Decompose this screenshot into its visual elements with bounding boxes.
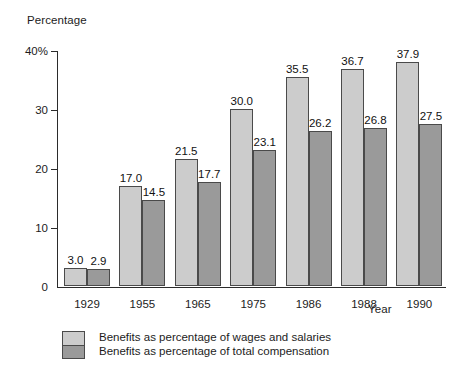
x-tick-label-1965: 1965 bbox=[185, 298, 211, 310]
bar-1955-series2[interactable] bbox=[142, 200, 165, 286]
legend-swatch-2[interactable] bbox=[62, 345, 85, 359]
bar-value-label: 2.9 bbox=[91, 255, 107, 267]
legend-swatches bbox=[62, 331, 85, 359]
bar-value-label: 35.5 bbox=[286, 63, 308, 75]
y-tick-label: 40% bbox=[25, 45, 48, 57]
plot-area: 010203040% 3.02.917.014.521.517.730.023.… bbox=[57, 51, 446, 287]
legend: Benefits as percentage of wages and sala… bbox=[62, 330, 331, 359]
legend-swatch-1[interactable] bbox=[62, 331, 85, 345]
bar-1965-series1[interactable] bbox=[175, 159, 198, 286]
y-axis-title: Percentage bbox=[27, 14, 87, 26]
bar-value-label: 30.0 bbox=[230, 95, 252, 107]
y-tick-label: 20 bbox=[35, 163, 48, 175]
y-tick-mark bbox=[51, 169, 58, 170]
x-tick-label-1955: 1955 bbox=[130, 298, 156, 310]
bar-value-label: 23.1 bbox=[253, 136, 275, 148]
bar-1990-series2[interactable] bbox=[419, 124, 442, 286]
bar-1988-series2[interactable] bbox=[364, 128, 387, 286]
legend-label-1: Benefits as percentage of wages and sala… bbox=[99, 330, 331, 344]
y-tick-label: 10 bbox=[35, 222, 48, 234]
y-tick-mark bbox=[51, 110, 58, 111]
bar-1965-series2[interactable] bbox=[198, 182, 221, 286]
bar-value-label: 27.5 bbox=[420, 110, 442, 122]
bar-value-label: 17.0 bbox=[120, 172, 142, 184]
bar-value-label: 3.0 bbox=[68, 254, 84, 266]
x-tick-label-1929: 1929 bbox=[74, 298, 100, 310]
bar-chart: Percentage Year 010203040% 3.02.917.014.… bbox=[0, 0, 468, 388]
bar-1990-series1[interactable] bbox=[396, 62, 419, 286]
bar-1988-series1[interactable] bbox=[341, 69, 364, 286]
bar-1955-series1[interactable] bbox=[119, 186, 142, 286]
bar-value-label: 17.7 bbox=[198, 168, 220, 180]
bar-1986-series1[interactable] bbox=[286, 77, 309, 286]
bar-1975-series2[interactable] bbox=[253, 150, 276, 286]
bar-1986-series2[interactable] bbox=[309, 131, 332, 286]
bar-value-label: 37.9 bbox=[397, 48, 419, 60]
bar-value-label: 26.2 bbox=[309, 117, 331, 129]
bar-1975-series1[interactable] bbox=[230, 109, 253, 286]
bar-1929-series1[interactable] bbox=[64, 268, 87, 286]
y-tick-label: 0 bbox=[42, 281, 48, 293]
x-tick-label-1988: 1988 bbox=[351, 298, 377, 310]
bar-value-label: 21.5 bbox=[175, 145, 197, 157]
x-tick-label-1975: 1975 bbox=[240, 298, 266, 310]
bar-value-label: 36.7 bbox=[341, 55, 363, 67]
y-tick-label: 30 bbox=[35, 104, 48, 116]
legend-label-2: Benefits as percentage of total compensa… bbox=[99, 344, 331, 358]
y-tick-mark bbox=[51, 228, 58, 229]
legend-labels: Benefits as percentage of wages and sala… bbox=[99, 330, 331, 358]
x-axis-line bbox=[57, 287, 446, 288]
y-tick-mark bbox=[51, 51, 58, 52]
x-tick-label-1990: 1990 bbox=[407, 298, 433, 310]
bar-1929-series2[interactable] bbox=[87, 269, 110, 286]
bar-value-label: 26.8 bbox=[364, 114, 386, 126]
bar-value-label: 14.5 bbox=[143, 186, 165, 198]
x-tick-label-1986: 1986 bbox=[296, 298, 322, 310]
